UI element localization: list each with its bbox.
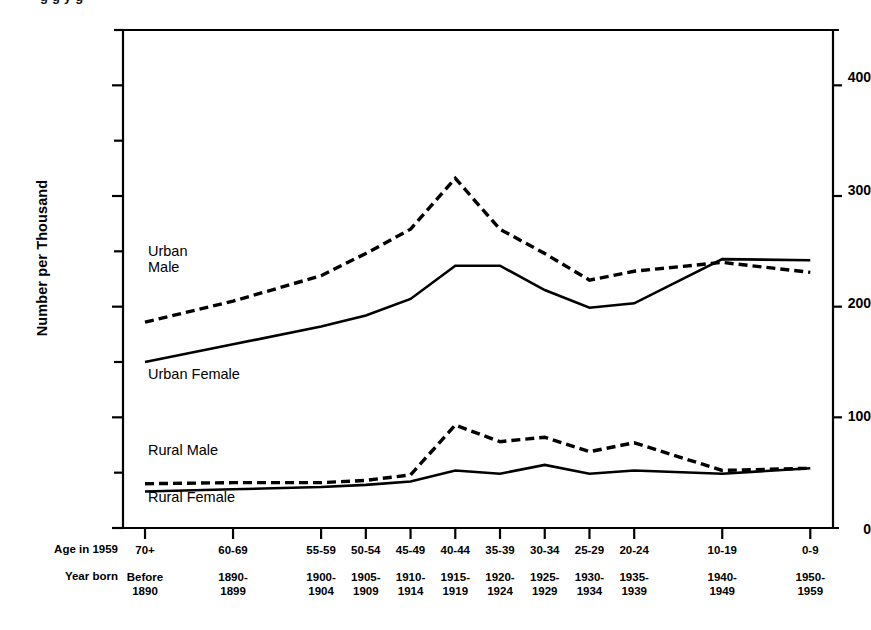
x-year-label-10: 1940- 1949 — [682, 570, 762, 599]
chart-figure: g g y g Number per Thousand 0 100 200 30… — [0, 0, 871, 630]
x-year-label-11: 1950- 1959 — [770, 570, 850, 599]
series-group — [145, 178, 810, 491]
x-age-label-9: 20-24 — [594, 543, 674, 557]
x-year-label-1: 1890- 1899 — [193, 570, 273, 599]
x-year-label-0: Before 1890 — [105, 570, 185, 599]
x-age-label-10: 10-19 — [682, 543, 762, 557]
series-line-rural-male — [145, 425, 810, 484]
series-line-rural-female — [145, 465, 810, 492]
series-line-urban-female — [145, 259, 810, 362]
x-year-label-9: 1935- 1939 — [594, 570, 674, 599]
x-age-label-11: 0-9 — [770, 543, 850, 557]
plot-canvas — [0, 0, 871, 630]
x-age-label-1: 60-69 — [193, 543, 273, 557]
axes-group — [112, 30, 842, 539]
x-age-label-0: 70+ — [105, 543, 185, 557]
series-line-urban-male — [145, 178, 810, 322]
